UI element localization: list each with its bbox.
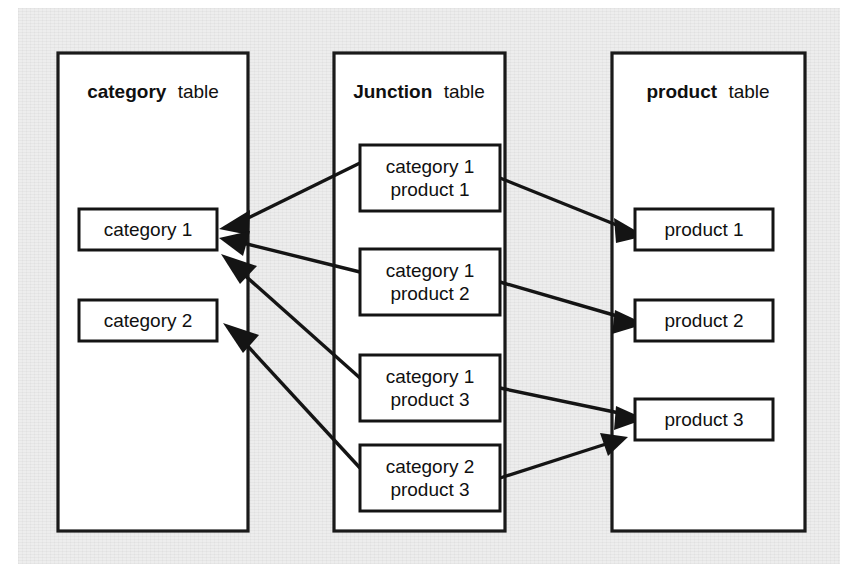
- junction-table-title: Junction table: [353, 81, 485, 102]
- entity-junction-row-4-line1: category 2: [386, 456, 475, 477]
- product-table-panel: [612, 53, 805, 531]
- category-table-title-light: table: [178, 81, 219, 102]
- category-table-title: category table: [87, 81, 219, 102]
- entity-product-2-label: product 2: [664, 310, 743, 331]
- entity-category-2[interactable]: category 2: [79, 300, 217, 341]
- entity-category-2-label: category 2: [104, 310, 193, 331]
- entity-category-1-label: category 1: [104, 219, 193, 240]
- entity-junction-row-3-line2: product 3: [390, 389, 469, 410]
- entity-junction-row-1-line1: category 1: [386, 156, 475, 177]
- entity-junction-row-4[interactable]: category 2 product 3: [360, 445, 500, 511]
- entity-junction-row-4-line2: product 3: [390, 479, 469, 500]
- junction-table-title-strong: Junction: [353, 81, 432, 102]
- entity-product-2[interactable]: product 2: [635, 300, 773, 341]
- entity-product-3[interactable]: product 3: [635, 399, 773, 440]
- entity-product-1-label: product 1: [664, 219, 743, 240]
- entity-junction-row-1-line2: product 1: [390, 179, 469, 200]
- product-table-title-light: table: [728, 81, 769, 102]
- entity-junction-row-2-line2: product 2: [390, 283, 469, 304]
- entity-junction-row-3[interactable]: category 1 product 3: [360, 355, 500, 421]
- entity-product-1[interactable]: product 1: [635, 209, 773, 250]
- category-table-title-strong: category: [87, 81, 167, 102]
- entity-junction-row-2-line1: category 1: [386, 260, 475, 281]
- diagram-canvas: category table Junction table product ta…: [0, 0, 852, 572]
- relationship-junction4-to-product3: [500, 433, 628, 478]
- entity-product-3-label: product 3: [664, 409, 743, 430]
- entity-category-1[interactable]: category 1: [79, 209, 217, 250]
- category-table-panel: [58, 53, 248, 531]
- product-table-title-strong: product: [646, 81, 717, 102]
- entity-junction-row-2[interactable]: category 1 product 2: [360, 249, 500, 315]
- product-table-title: product table: [646, 81, 769, 102]
- entity-junction-row-1[interactable]: category 1 product 1: [360, 145, 500, 211]
- junction-table-diagram: category table Junction table product ta…: [0, 0, 852, 572]
- entity-junction-row-3-line1: category 1: [386, 366, 475, 387]
- junction-table-title-light: table: [444, 81, 485, 102]
